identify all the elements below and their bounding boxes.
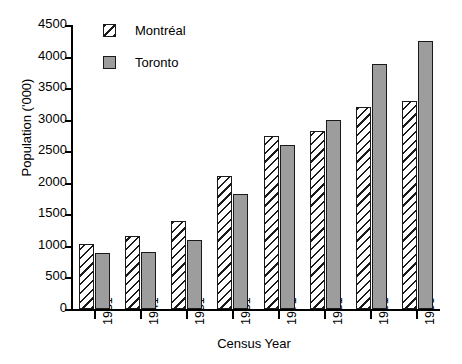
bar-toronto-1996[interactable]	[418, 41, 433, 309]
y-tick-label: 4000	[38, 48, 67, 63]
x-tick-mark	[370, 311, 372, 319]
bar-group	[217, 24, 248, 309]
y-tick-label: 3000	[38, 111, 67, 126]
bar-group	[310, 24, 341, 309]
y-axis-line	[71, 25, 73, 310]
y-tick-label: 2500	[38, 142, 67, 157]
x-tick-mark	[140, 311, 142, 319]
bar-montral-1996[interactable]	[402, 101, 417, 309]
plot-area: 050010001500200025003000350040004500 193…	[71, 25, 440, 310]
x-axis-title: Census Year	[0, 336, 462, 351]
bar-montral-1931[interactable]	[79, 244, 94, 309]
y-axis-title: Population ('000)	[19, 38, 34, 218]
bar-toronto-1941[interactable]	[141, 252, 156, 309]
bar-toronto-1951[interactable]	[187, 240, 202, 309]
y-tick-label: 3500	[38, 79, 67, 94]
y-tick-label: 4500	[38, 16, 67, 31]
x-tick-mark	[416, 311, 418, 319]
bar-toronto-1991[interactable]	[372, 64, 387, 310]
bar-toronto-1931[interactable]	[95, 253, 110, 309]
x-tick-mark	[186, 311, 188, 319]
y-tick-label: 1000	[38, 237, 67, 252]
bar-toronto-1971[interactable]	[280, 145, 295, 309]
x-tick-mark	[324, 311, 326, 319]
bar-group	[125, 24, 156, 309]
bar-group	[402, 24, 433, 309]
bar-toronto-1981[interactable]	[326, 120, 341, 309]
bar-montral-1951[interactable]	[171, 221, 186, 309]
x-tick-mark	[278, 311, 280, 319]
x-tick-mark	[232, 311, 234, 319]
bar-group	[171, 24, 202, 309]
y-tick-label: 0	[60, 300, 67, 315]
y-tick-label: 1500	[38, 205, 67, 220]
bar-montral-1991[interactable]	[356, 107, 371, 309]
y-tick-label: 2000	[38, 174, 67, 189]
bar-group	[264, 24, 295, 309]
bar-montral-1961[interactable]	[217, 176, 232, 309]
bar-group	[79, 24, 110, 309]
bar-montral-1941[interactable]	[125, 236, 140, 309]
y-tick-label: 500	[45, 268, 67, 283]
x-tick-mark	[94, 311, 96, 319]
bar-montral-1981[interactable]	[310, 131, 325, 309]
bar-chart-figure: Population ('000) Montréal Toronto 05001…	[0, 0, 462, 364]
bar-toronto-1961[interactable]	[233, 194, 248, 309]
bar-montral-1971[interactable]	[264, 136, 279, 309]
bar-group	[356, 24, 387, 309]
